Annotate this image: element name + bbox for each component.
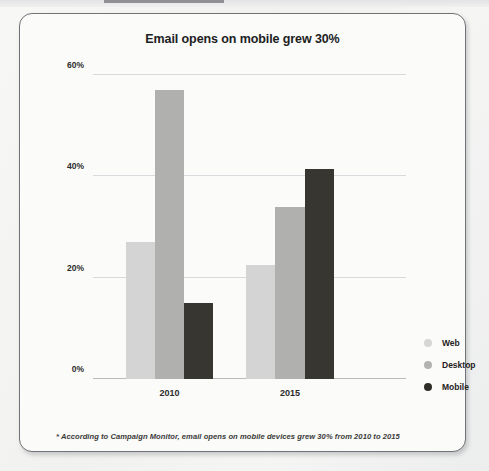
legend-item-web[interactable]: Web: [424, 332, 476, 354]
y-tick-label-40: 40%: [67, 161, 84, 171]
bar-2015-mobile: [305, 169, 334, 379]
bar-2010-web: [126, 242, 155, 379]
chart-legend: WebDesktopMobile: [424, 332, 476, 398]
bar-2015-desktop: [275, 207, 304, 379]
y-tick-label-0: 0%: [72, 364, 84, 374]
chart-card: Email opens on mobile grew 30% 0%20%40%6…: [19, 13, 466, 452]
bar-group-2010: 2010: [126, 75, 213, 379]
y-tick-label-20: 20%: [67, 263, 84, 273]
y-tick-label-60: 60%: [67, 60, 84, 70]
bar-2010-mobile: [184, 303, 213, 379]
legend-label-mobile: Mobile: [442, 382, 469, 392]
chart-title: Email opens on mobile grew 30%: [20, 32, 465, 46]
legend-dot-desktop-icon: [424, 361, 432, 369]
legend-item-mobile[interactable]: Mobile: [424, 376, 476, 398]
legend-dot-mobile-icon: [424, 383, 432, 391]
legend-item-desktop[interactable]: Desktop: [424, 354, 476, 376]
plot-area: 0%20%40%60% 20102015: [93, 75, 406, 379]
bar-2015-web: [246, 265, 275, 379]
x-tick-label-2010: 2010: [126, 388, 213, 398]
chart-footnote: * According to Campaign Monitor, email o…: [56, 432, 400, 441]
legend-label-desktop: Desktop: [442, 360, 476, 370]
x-tick-label-2015: 2015: [246, 388, 334, 398]
bar-2010-desktop: [155, 90, 184, 379]
bar-group-2015: 2015: [246, 75, 334, 379]
scan-top-edge-band: [0, 0, 489, 7]
legend-dot-web-icon: [424, 339, 432, 347]
legend-label-web: Web: [442, 338, 460, 348]
